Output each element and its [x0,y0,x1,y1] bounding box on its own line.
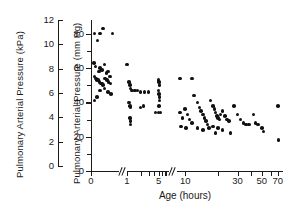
data-point [209,99,213,103]
y-right-major-tick [86,68,92,69]
data-point [147,90,151,94]
data-point [109,92,113,96]
data-point [196,101,200,105]
y-right-major-tick [86,34,92,35]
data-point [219,113,223,117]
data-point [190,77,194,81]
data-point [143,90,147,94]
data-point [109,82,113,86]
x-ticklabel: 70 [267,175,289,186]
data-point [232,104,236,108]
y-left-tick [58,20,63,21]
data-point [192,94,196,98]
data-point [159,111,163,115]
y-axis-right-line [91,20,92,172]
data-point [106,70,110,74]
y-right-ticklabel: 20 [62,131,84,142]
data-point [211,125,215,129]
scatter-plot-figure: Pulmonary Arterial Pressure (kPa) Pulmon… [0,0,304,206]
data-point [221,109,225,113]
data-point [100,68,104,72]
y-left-tick [58,142,63,143]
data-point [93,32,97,36]
data-point [98,89,102,93]
data-point [236,113,240,117]
x-ticklabel: 0 [80,175,102,186]
x-ticklabel: 5 [148,175,170,186]
data-point [178,111,182,115]
data-point [256,123,260,127]
y-right-minor-tick [87,120,92,121]
data-point [277,138,281,142]
y-right-ticklabel: 60 [62,62,84,73]
data-point [214,131,218,135]
data-point [157,104,161,108]
data-point [227,119,231,123]
data-point [108,75,112,79]
x-axis-title: Age (hours) [120,190,250,201]
y-right-minor-tick [87,51,92,52]
y-right-ticklabel: 40 [62,96,84,107]
data-point [276,104,280,108]
x-minor-tick [165,171,166,176]
data-point [93,99,97,103]
data-point [96,39,100,43]
data-point [262,130,266,134]
y-left-ticklabel: 4 [32,111,54,122]
data-point [247,123,251,127]
data-point [94,65,98,69]
y-right-minor-tick [87,85,92,86]
data-point [201,128,205,132]
data-point [98,32,102,36]
y-left-tick [58,117,63,118]
x-ticklabel: 10 [174,175,196,186]
data-point [190,121,194,125]
data-point [216,126,220,130]
data-point [103,63,107,67]
data-point [181,116,185,120]
y-right-ticklabel: 80 [62,28,84,39]
data-point [184,126,188,130]
data-point [129,123,133,127]
y-left-ticklabel: 8 [32,63,54,74]
x-ticklabel: 1 [116,175,138,186]
y-axis-left-title: Pulmonary Arterial Pressure (kPa) [14,31,25,178]
data-point [252,113,256,117]
y-left-ticklabel: 10 [32,38,54,49]
x-minor-tick [162,171,163,176]
y-left-ticklabel: 0 [32,160,54,171]
data-point [95,95,99,99]
data-point [158,99,162,103]
y-right-minor-tick [87,154,92,155]
data-point [125,63,129,67]
x-minor-tick [141,171,142,176]
data-point [186,113,190,117]
data-point [101,27,105,31]
data-point [179,125,183,129]
y-left-ticklabel: 2 [32,136,54,147]
data-point [139,90,143,94]
data-point [129,106,133,110]
data-point [207,126,211,130]
y-left-tick [58,44,63,45]
y-left-ticklabel: 6 [32,87,54,98]
y-left-tick [58,93,63,94]
data-point [158,83,162,87]
data-point [111,32,115,36]
x-minor-tick [218,171,219,176]
data-point [218,118,222,122]
data-point [229,131,233,135]
data-point [196,126,200,130]
x-ticklabel: 30 [227,175,249,186]
data-point [221,128,225,132]
y-right-major-tick [86,137,92,138]
data-point [178,77,182,81]
data-point [183,107,187,111]
y-left-ticklabel: 12 [32,14,54,25]
data-point [142,104,146,108]
y-right-major-tick [86,102,92,103]
